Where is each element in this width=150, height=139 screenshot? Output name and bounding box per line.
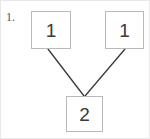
tree-node-left: 1 bbox=[31, 11, 71, 49]
tree-node-sum-label: 2 bbox=[79, 105, 90, 124]
edge-right-to-sum bbox=[85, 49, 125, 96]
edge-left-to-sum bbox=[48, 49, 84, 96]
tree-node-right-label: 1 bbox=[119, 21, 130, 40]
tree-node-right: 1 bbox=[105, 11, 144, 49]
exercise-diagram-canvas: 1. 1 1 2 bbox=[0, 0, 150, 139]
tree-node-left-label: 1 bbox=[46, 21, 57, 40]
tree-node-sum: 2 bbox=[66, 96, 103, 132]
